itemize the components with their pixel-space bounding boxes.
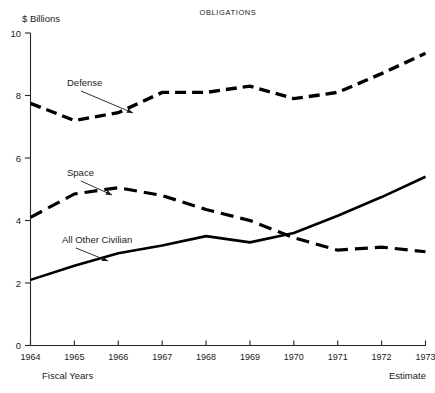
y-axis-ticks: 0246810: [10, 28, 30, 352]
y-axis: 0246810: [10, 28, 30, 352]
x-tick-label: 1972: [372, 352, 392, 362]
x-axis-ticks: 1964196519661967196819691970197119721973: [20, 341, 435, 362]
series-label-all-other-civilian: All Other Civilian: [62, 234, 132, 245]
x-axis-caption-right: Estimate: [389, 370, 426, 381]
series-annotations: DefenseSpaceAll Other Civilian: [62, 77, 133, 261]
annotation-arrow-head: [106, 190, 112, 195]
series-label-defense: Defense: [67, 77, 102, 88]
x-tick-label: 1966: [108, 352, 128, 362]
y-tick-label: 10: [10, 28, 21, 39]
y-tick-label: 8: [16, 90, 21, 101]
y-tick-label: 4: [16, 215, 21, 226]
annotation-leader-line: [81, 91, 133, 113]
x-tick-label: 1967: [152, 352, 172, 362]
x-tick-label: 1964: [20, 352, 40, 362]
y-tick-label: 0: [16, 340, 21, 351]
y-tick-label: 6: [16, 153, 21, 164]
chart-title: OBLIGATIONS: [200, 8, 257, 17]
obligations-line-chart: $ Billions OBLIGATIONS 0246810 196419651…: [0, 0, 435, 393]
y-tick-label: 2: [16, 278, 21, 289]
x-axis-caption-left: Fiscal Years: [42, 370, 93, 381]
x-tick-label: 1969: [240, 352, 260, 362]
x-tick-label: 1973: [415, 352, 435, 362]
series-label-space: Space: [67, 167, 94, 178]
x-tick-label: 1970: [284, 352, 304, 362]
x-tick-label: 1965: [64, 352, 84, 362]
x-tick-label: 1971: [328, 352, 348, 362]
x-axis: 1964196519661967196819691970197119721973: [20, 341, 435, 362]
y-axis-unit-label: $ Billions: [22, 13, 60, 24]
chart-container: $ Billions OBLIGATIONS 0246810 196419651…: [0, 0, 435, 393]
x-tick-label: 1968: [196, 352, 216, 362]
